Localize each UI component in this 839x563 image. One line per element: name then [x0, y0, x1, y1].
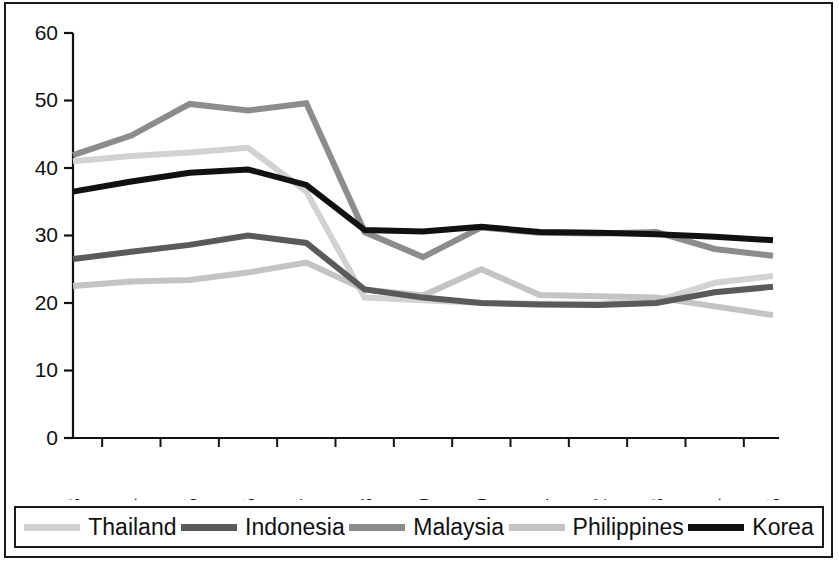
legend-item-philippines: Philippines [509, 516, 684, 539]
x-tick-label: 1995 [179, 498, 202, 500]
x-tick-label: 2003 [645, 498, 668, 500]
x-tick-label: 1996 [237, 498, 260, 500]
series-line-korea [73, 169, 773, 240]
legend-label: Malaysia [413, 516, 504, 539]
x-tick-label: 2004 [704, 498, 727, 500]
x-tick-label: 1994 [120, 498, 143, 500]
series-line-philippines [73, 263, 773, 316]
x-tick-label: 1997 [295, 498, 318, 500]
plot-area: 0102030405060199319941995199619971998199… [0, 0, 839, 500]
legend-swatch-thailand [24, 524, 80, 531]
legend-swatch-indonesia [181, 524, 237, 531]
line-chart: 0102030405060199319941995199619971998199… [0, 0, 839, 500]
legend-item-thailand: Thailand [24, 516, 176, 539]
legend-label: Indonesia [245, 516, 345, 539]
chart-figure: 0102030405060199319941995199619971998199… [0, 0, 839, 563]
y-tick-label: 0 [46, 426, 58, 449]
x-tick-label: 2001 [529, 498, 552, 500]
legend-label: Korea [752, 516, 813, 539]
legend-swatch-korea [688, 524, 744, 531]
x-tick-label: 2005 [762, 498, 785, 500]
y-tick-label: 60 [35, 21, 58, 44]
legend-swatch-malaysia [349, 524, 405, 531]
legend-item-indonesia: Indonesia [181, 516, 345, 539]
y-tick-label: 10 [35, 358, 58, 381]
legend-swatch-philippines [509, 524, 565, 531]
legend-item-malaysia: Malaysia [349, 516, 504, 539]
y-tick-label: 50 [35, 88, 58, 111]
x-tick-label: 1993 [62, 498, 85, 500]
y-tick-label: 40 [35, 156, 58, 179]
x-tick-label: 1999 [412, 498, 435, 500]
x-tick-label: 1998 [354, 498, 377, 500]
y-tick-label: 30 [35, 223, 58, 246]
x-tick-label: 2000 [470, 498, 493, 500]
x-tick-label: 2002 [587, 498, 610, 500]
y-tick-label: 20 [35, 291, 58, 314]
legend-label: Philippines [573, 516, 684, 539]
chart-legend: ThailandIndonesiaMalaysiaPhilippinesKore… [14, 506, 824, 548]
legend-item-korea: Korea [688, 516, 813, 539]
legend-label: Thailand [88, 516, 176, 539]
